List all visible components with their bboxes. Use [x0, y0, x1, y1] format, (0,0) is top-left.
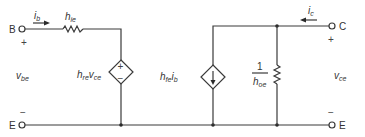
arrow-ic-head [300, 18, 306, 23]
terminal-emitter-right [329, 122, 335, 128]
output-section: hfeib 1 hoe ic C + vce − E [160, 5, 347, 131]
output-minus-sign: − [328, 107, 334, 118]
label-ic: ic [308, 5, 314, 17]
terminal-base [19, 26, 25, 32]
h-parameter-circuit-diagram: + − B + ib hie vbe hrevce − E [0, 0, 365, 137]
input-minus-sign: − [20, 107, 26, 118]
input-section: + − B + ib hie vbe hrevce − E [9, 10, 133, 131]
resistor-hoe [274, 65, 280, 84]
vsource-plus: + [118, 61, 124, 72]
terminal-collector [329, 23, 335, 29]
terminal-emitter-left [19, 122, 25, 128]
label-collector: C [339, 21, 346, 32]
label-vce: vce [334, 70, 347, 82]
resistor-hie [63, 26, 83, 32]
arrow-ib-head [44, 21, 50, 26]
label-vbe: vbe [16, 70, 29, 82]
vsource-minus: − [118, 73, 124, 84]
label-ib: ib [34, 10, 40, 22]
label-hre-vce: hrevce [77, 69, 101, 81]
output-plus-sign: + [328, 34, 334, 45]
junction-dot [119, 123, 123, 127]
wire-hie-to-source [83, 29, 121, 60]
wire-output-top [213, 26, 329, 65]
label-hoe-denominator: hoe [253, 76, 266, 88]
label-emitter-left: E [9, 120, 16, 131]
input-plus-sign: + [21, 37, 27, 48]
label-base: B [9, 24, 16, 35]
label-hoe-numerator: 1 [257, 61, 263, 72]
label-emitter-right: E [339, 120, 346, 131]
label-hfe-ib: hfeib [160, 71, 178, 83]
label-hie: hie [65, 11, 76, 23]
